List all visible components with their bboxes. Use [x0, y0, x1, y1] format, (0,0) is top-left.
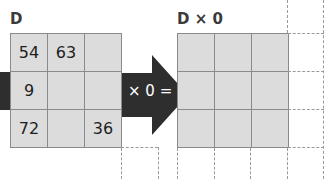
- left-cell-0-2: [85, 34, 122, 72]
- right-cell-2-2: [252, 110, 289, 148]
- dashed-line: [121, 147, 158, 148]
- dashed-line: [287, 148, 288, 179]
- left-cell-2-1: [48, 110, 85, 148]
- dashed-line: [288, 109, 324, 110]
- left-cell-1-2: [85, 72, 122, 110]
- left-matrix-label: D: [10, 10, 22, 28]
- right-cell-0-1: [215, 34, 252, 72]
- dashed-line: [323, 0, 324, 179]
- right-cell-0-0: [178, 34, 215, 72]
- dashed-line: [177, 148, 178, 179]
- operation-label: × 0 =: [128, 82, 172, 100]
- dashed-line: [214, 148, 215, 179]
- dashed-line: [287, 0, 288, 33]
- left-cell-0-0: 54: [11, 34, 48, 72]
- dashed-line: [121, 148, 122, 179]
- right-cell-0-2: [252, 34, 289, 72]
- left-cell-1-1: [48, 72, 85, 110]
- right-cell-2-0: [178, 110, 215, 148]
- left-cell-2-2: 36: [85, 110, 122, 148]
- dashed-line: [288, 33, 324, 34]
- right-cell-1-0: [178, 72, 215, 110]
- dashed-line: [288, 147, 324, 148]
- dashed-line: [250, 148, 251, 179]
- right-matrix-label: D × 0: [177, 10, 223, 28]
- dashed-line: [158, 147, 159, 179]
- right-cell-1-1: [215, 72, 252, 110]
- right-cell-2-1: [215, 110, 252, 148]
- left-cell-1-0: 9: [11, 72, 48, 110]
- left-cell-0-1: 63: [48, 34, 85, 72]
- left-cell-2-0: 72: [11, 110, 48, 148]
- dashed-line: [288, 71, 324, 72]
- right-matrix: [177, 33, 289, 148]
- left-matrix: 54 63 9 72 36: [10, 33, 122, 148]
- right-cell-1-2: [252, 72, 289, 110]
